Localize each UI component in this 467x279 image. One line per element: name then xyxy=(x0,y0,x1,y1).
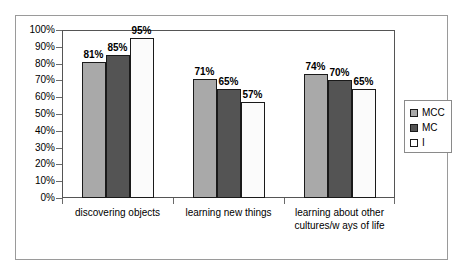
bar-mc-cat1 xyxy=(217,89,241,198)
x-axis-tick-mark xyxy=(284,198,285,204)
y-axis-tick-label: 20% xyxy=(15,159,55,169)
y-axis-tick-labels: 100%90%80%70%60%50%40%30%20%10%0% xyxy=(15,30,55,198)
bar-i-cat2 xyxy=(352,89,376,198)
bar-i-cat0 xyxy=(130,38,154,198)
y-axis-tick-mark xyxy=(56,198,62,199)
y-axis-tick-label: 0% xyxy=(15,193,55,203)
y-axis-tick-label: 60% xyxy=(15,92,55,102)
bar-value-label: 57% xyxy=(235,89,271,100)
y-axis-tick-mark xyxy=(56,97,62,98)
y-axis-tick-label: 10% xyxy=(15,176,55,186)
bar-value-label: 65% xyxy=(346,76,382,87)
bar-mcc-cat1 xyxy=(193,79,217,198)
bar-mcc-cat0 xyxy=(82,62,106,198)
x-axis-category-label-line: learning about other xyxy=(272,206,407,219)
legend-swatch-icon xyxy=(410,139,418,147)
y-axis-tick-mark xyxy=(56,80,62,81)
bar-mcc-cat2 xyxy=(304,74,328,198)
y-axis-tick-mark xyxy=(56,181,62,182)
bar-i-cat1 xyxy=(241,102,265,198)
y-axis-tick-mark xyxy=(56,148,62,149)
legend-item-label: I xyxy=(422,138,425,148)
y-axis-tick-mark xyxy=(56,47,62,48)
bars-layer: 81%85%95%71%65%57%74%70%65% xyxy=(62,30,395,198)
y-axis-tick-label: 90% xyxy=(15,42,55,52)
y-axis-tick-label: 70% xyxy=(15,75,55,85)
bar-mc-cat2 xyxy=(328,80,352,198)
y-axis-tick-label: 40% xyxy=(15,126,55,136)
x-axis-category-label-line: cultures/w ays of life xyxy=(272,219,407,232)
legend-item-mc[interactable]: MC xyxy=(410,120,451,135)
y-axis-tick-label: 50% xyxy=(15,109,55,119)
y-axis-tick-mark xyxy=(56,164,62,165)
y-axis-tick-mark xyxy=(56,131,62,132)
legend-swatch-icon xyxy=(410,109,418,117)
y-axis-tick-label: 30% xyxy=(15,143,55,153)
y-axis-tick-mark xyxy=(56,64,62,65)
x-axis-ticks xyxy=(62,198,395,204)
x-axis-tick-mark xyxy=(173,198,174,204)
legend-swatch-icon xyxy=(410,124,418,132)
y-axis-tick-mark xyxy=(56,30,62,31)
y-axis-tick-label: 80% xyxy=(15,59,55,69)
y-axis-tick-label: 100% xyxy=(15,25,55,35)
x-axis-tick-mark xyxy=(62,198,63,204)
bar-value-label: 95% xyxy=(124,25,160,36)
legend-item-mcc[interactable]: MCC xyxy=(410,105,451,120)
bar-value-label: 65% xyxy=(211,76,247,87)
legend-item-label: MC xyxy=(422,123,438,133)
x-axis-category-label: learning about othercultures/w ays of li… xyxy=(272,206,407,232)
x-axis-tick-mark xyxy=(394,198,395,204)
chart-container: 100%90%80%70%60%50%40%30%20%10%0% 81%85%… xyxy=(0,0,467,279)
legend-item-i[interactable]: I xyxy=(410,135,451,150)
bar-mc-cat0 xyxy=(106,55,130,198)
x-axis-category-labels: discovering objectslearning new thingsle… xyxy=(62,206,395,246)
y-axis-tick-mark xyxy=(56,114,62,115)
legend-item-label: MCC xyxy=(422,108,445,118)
chart-legend: MCCMCI xyxy=(404,100,452,153)
